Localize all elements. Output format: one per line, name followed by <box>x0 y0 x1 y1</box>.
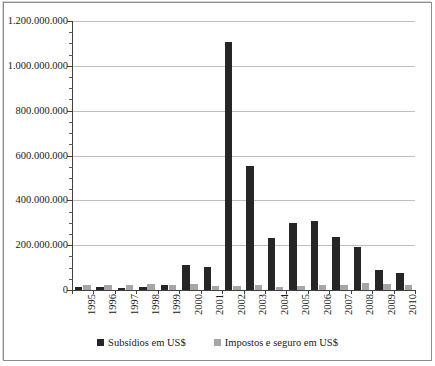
legend-swatch-icon <box>214 339 221 346</box>
x-axis-label-2002: 2002 <box>237 294 248 315</box>
bar-2004-series-1 <box>268 238 276 290</box>
x-axis-label-1998: 1998 <box>151 294 162 315</box>
bar-1996-series-1 <box>96 287 104 290</box>
bar-2002-series-2 <box>233 286 241 290</box>
x-axis-label-2006: 2006 <box>323 294 334 315</box>
bar-2006-series-1 <box>311 221 319 290</box>
x-axis-label-1997: 1997 <box>130 294 141 315</box>
plot-area <box>72 21 415 290</box>
y-axis-label: 400.000.000 <box>0 195 68 206</box>
y-axis-label: 1.000.000.000 <box>0 61 68 72</box>
x-axis-label-2001: 2001 <box>215 294 226 315</box>
bar-2001-series-2 <box>212 286 220 290</box>
bar-1995-series-2 <box>83 285 91 290</box>
bar-2002-series-1 <box>225 42 233 290</box>
bar-2004-series-2 <box>276 287 284 290</box>
bar-2006-series-2 <box>319 285 327 290</box>
y-axis-label: 200.000.000 <box>0 240 68 251</box>
bar-2010-series-1 <box>396 273 404 290</box>
x-axis-label-1999: 1999 <box>172 294 183 315</box>
legend-label: Subsídios em US$ <box>108 337 186 348</box>
chart-figure: 0200.000.000400.000.000600.000.000800.00… <box>0 0 435 366</box>
y-axis-label: 0 <box>0 285 68 296</box>
x-axis-label-2010: 2010 <box>408 294 419 315</box>
x-axis-label-2000: 2000 <box>194 294 205 315</box>
legend-item-2: Impostos e seguro em US$ <box>214 337 338 348</box>
x-axis-label-1995: 1995 <box>87 294 98 315</box>
bar-1999-series-1 <box>161 285 169 290</box>
bar-series-group <box>72 21 415 290</box>
y-axis-label: 600.000.000 <box>0 151 68 162</box>
legend-label: Impostos e seguro em US$ <box>225 337 338 348</box>
bar-2003-series-1 <box>246 166 254 290</box>
bar-2009-series-2 <box>383 284 391 290</box>
bar-2008-series-2 <box>362 283 370 290</box>
bar-2001-series-1 <box>204 267 212 290</box>
x-axis-label-2005: 2005 <box>301 294 312 315</box>
x-axis-tick-labels: 1995199619971998199920002001200220032004… <box>72 294 416 334</box>
legend-swatch-icon <box>97 339 104 346</box>
bar-2010-series-2 <box>405 285 413 290</box>
bar-1998-series-2 <box>147 284 155 290</box>
bar-2000-series-1 <box>182 265 190 290</box>
x-axis-label-2009: 2009 <box>387 294 398 315</box>
bar-1997-series-1 <box>118 288 126 290</box>
y-axis-label: 800.000.000 <box>0 106 68 117</box>
bar-2003-series-2 <box>255 285 263 290</box>
bar-2007-series-2 <box>340 285 348 290</box>
x-axis-label-1996: 1996 <box>108 294 119 315</box>
bar-2005-series-2 <box>297 286 305 290</box>
bar-2009-series-1 <box>375 270 383 290</box>
y-axis-tick-labels: 0200.000.000400.000.000600.000.000800.00… <box>0 21 68 290</box>
bar-2008-series-1 <box>354 247 362 290</box>
bar-2007-series-1 <box>332 237 340 290</box>
bar-1996-series-2 <box>104 285 112 290</box>
bar-1998-series-1 <box>139 287 147 290</box>
bar-1997-series-2 <box>126 285 134 290</box>
x-axis-label-2003: 2003 <box>258 294 269 315</box>
bar-2000-series-2 <box>190 284 198 290</box>
legend-item-1: Subsídios em US$ <box>97 337 186 348</box>
bar-1995-series-1 <box>75 287 83 290</box>
x-axis-label-2007: 2007 <box>344 294 355 315</box>
y-axis-label: 1.200.000.000 <box>0 16 68 27</box>
x-axis-label-2008: 2008 <box>365 294 376 315</box>
bar-2005-series-1 <box>289 223 297 290</box>
bar-1999-series-2 <box>169 285 177 290</box>
x-axis-label-2004: 2004 <box>280 294 291 315</box>
chart-legend: Subsídios em US$Impostos e seguro em US$ <box>0 337 435 348</box>
